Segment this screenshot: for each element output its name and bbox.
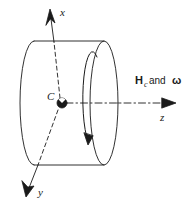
vector-h-label: H: [135, 74, 143, 86]
vector-conjunction-label: and: [149, 75, 166, 86]
axis-z-label: z: [159, 111, 165, 123]
vector-omega-label: ω: [172, 74, 181, 86]
axis-x-label: x: [59, 6, 65, 18]
cylinder-spin-diagram: x y z C H c and ω: [0, 0, 195, 202]
vector-h-subscript: c: [144, 80, 148, 89]
figure-container: x y z C H c and ω: [0, 0, 195, 202]
center-of-mass-marker: [57, 98, 67, 108]
center-of-mass-label: C: [47, 90, 55, 102]
axis-y-label: y: [37, 186, 43, 198]
